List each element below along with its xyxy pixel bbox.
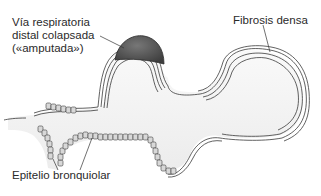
label-line-1: Vía respiratoria (12, 16, 94, 29)
label-line-3: («amputada») (12, 42, 94, 55)
label-fibrosis: Fibrosis densa (233, 14, 308, 27)
label-collapsed-distal-airway: Vía respiratoria distal colapsada («ampu… (12, 16, 94, 55)
label-line-2: distal colapsada (12, 29, 94, 42)
label-epithelium: Epitelio bronquiolar (12, 169, 110, 182)
